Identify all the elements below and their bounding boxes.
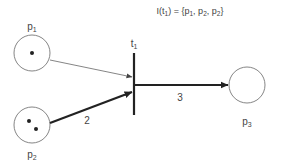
arc-weight-t1-p3: 3 (177, 93, 183, 103)
formula-open: ) = { (168, 6, 184, 16)
arc-p1-t1 (50, 60, 132, 77)
token (30, 51, 34, 55)
token (34, 127, 38, 131)
petri-net-canvas (0, 0, 281, 164)
formula-close: } (220, 6, 223, 16)
place-label-p2: p2 (27, 150, 36, 161)
place-label-p1: p1 (27, 22, 36, 33)
label-sub: 2 (33, 154, 37, 161)
place-p3 (229, 67, 265, 103)
arc-weight-p2-t1: 2 (84, 116, 90, 126)
token (27, 119, 31, 123)
input-function-formula: I(t1) = {p1, p2, p2} (157, 7, 224, 18)
place-label-p3: p3 (242, 117, 251, 128)
label-sub: 1 (133, 43, 137, 50)
formula-lhs: I(t (157, 6, 165, 16)
place-p1 (14, 35, 50, 71)
arc-p2-t1 (50, 92, 132, 123)
label-sub: 1 (33, 26, 37, 33)
transition-label-t1: t1 (131, 39, 138, 50)
label-sub: 3 (248, 121, 252, 128)
place-p2 (14, 107, 50, 143)
